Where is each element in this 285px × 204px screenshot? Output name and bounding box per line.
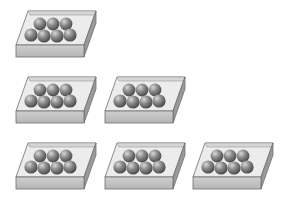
ball-tray xyxy=(103,141,187,191)
ball-tray xyxy=(191,141,275,191)
ball-tray xyxy=(103,75,187,125)
ball-tray xyxy=(14,141,98,191)
ball-tray xyxy=(14,75,98,125)
ball-tray xyxy=(14,9,98,59)
